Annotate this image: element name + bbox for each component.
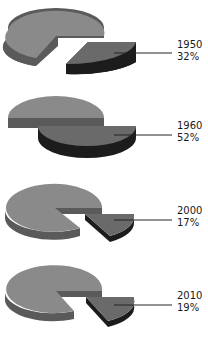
percent-label: 19% (177, 302, 199, 314)
pie-chart-1960: 1960 52% (0, 86, 208, 170)
percent-label: 32% (177, 51, 199, 63)
pie-chart-2000: 2000 17% (0, 170, 208, 254)
percent-label: 52% (177, 132, 199, 144)
year-label: 2000 (177, 205, 202, 217)
pie-chart-2010: 2010 19% (0, 253, 208, 337)
year-label: 2010 (177, 290, 202, 302)
year-label: 1960 (177, 120, 202, 132)
year-label: 1950 (177, 39, 202, 51)
pie-chart-1950: 1950 32% (0, 0, 208, 84)
percent-label: 17% (177, 217, 199, 229)
